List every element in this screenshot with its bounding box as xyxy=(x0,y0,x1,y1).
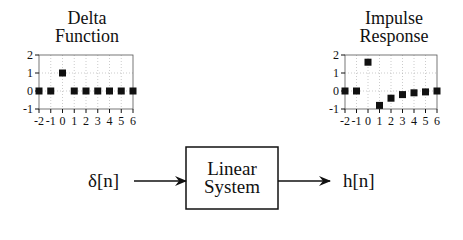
y-tick-label: 1 xyxy=(333,66,339,80)
y-tick-label: 0 xyxy=(27,84,33,98)
x-tick-label: 2 xyxy=(83,114,89,128)
data-point xyxy=(47,88,54,95)
data-point xyxy=(376,102,383,109)
y-tick-label: 1 xyxy=(27,66,33,80)
x-tick-label: 5 xyxy=(423,114,429,128)
x-tick-label: 0 xyxy=(60,114,66,128)
impulse-response-plot: -1012-2-10123456 xyxy=(329,48,441,128)
y-tick-label: 2 xyxy=(27,48,33,62)
x-tick-label: 4 xyxy=(107,114,113,128)
x-tick-label: -1 xyxy=(46,114,56,128)
data-point xyxy=(342,88,349,95)
x-tick-label: -1 xyxy=(352,114,362,128)
data-point xyxy=(106,88,113,95)
data-point xyxy=(388,95,395,102)
linear-system-label: Linear System xyxy=(186,160,278,196)
data-point xyxy=(399,91,406,98)
x-tick-label: 0 xyxy=(365,114,371,128)
x-tick-label: 4 xyxy=(411,114,417,128)
output-signal-label: h[n] xyxy=(343,171,375,191)
x-tick-label: -2 xyxy=(34,114,44,128)
data-point xyxy=(118,88,125,95)
y-tick-label: 0 xyxy=(333,84,339,98)
y-tick-label: 2 xyxy=(333,48,339,62)
x-tick-label: 5 xyxy=(118,114,124,128)
input-signal-label: δ[n] xyxy=(88,171,119,191)
data-point xyxy=(94,88,101,95)
y-tick-label: -1 xyxy=(23,102,33,116)
data-point xyxy=(59,70,66,77)
x-tick-label: -2 xyxy=(340,114,350,128)
data-point xyxy=(83,88,90,95)
x-tick-label: 2 xyxy=(388,114,394,128)
x-tick-label: 3 xyxy=(400,114,406,128)
data-point xyxy=(36,88,43,95)
box-text-line: System xyxy=(186,178,278,196)
data-point xyxy=(411,89,418,96)
x-tick-label: 6 xyxy=(130,114,136,128)
data-point xyxy=(353,88,360,95)
data-point xyxy=(434,88,441,95)
x-tick-label: 6 xyxy=(434,114,440,128)
data-point xyxy=(130,88,137,95)
delta-function-plot: -1012-2-10123456 xyxy=(23,48,137,128)
data-point xyxy=(71,88,78,95)
x-tick-label: 3 xyxy=(95,114,101,128)
x-tick-label: 1 xyxy=(377,114,383,128)
y-tick-label: -1 xyxy=(329,102,339,116)
data-point xyxy=(422,88,429,95)
x-tick-label: 1 xyxy=(71,114,77,128)
data-point xyxy=(365,59,372,66)
